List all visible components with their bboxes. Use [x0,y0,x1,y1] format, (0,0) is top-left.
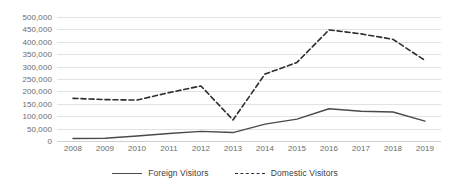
y-tick-label: 500,000 [22,13,52,22]
y-tick-label: 250,000 [22,75,52,84]
x-tick-label: 2010 [128,144,146,153]
y-tick-label: 50,000 [27,124,52,133]
legend-item-foreign-visitors[interactable]: Foreign Visitors [112,168,209,178]
legend-swatch-icon [112,173,142,174]
x-tick-label: 2018 [384,144,402,153]
line-chart: 050,000100,000150,000200,000250,000300,0… [0,0,450,192]
y-tick-label: 200,000 [22,87,52,96]
plot-area [57,17,441,141]
series-line-foreign-visitors [73,109,425,139]
x-tick-label: 2016 [320,144,338,153]
y-tick-label: 0 [47,137,52,146]
y-tick-label: 150,000 [22,99,52,108]
x-tick-label: 2008 [64,144,82,153]
x-tick-label: 2014 [256,144,274,153]
legend-label: Domestic Visitors [271,168,338,178]
legend-label: Foreign Visitors [148,168,209,178]
y-tick-label: 400,000 [22,37,52,46]
x-tick-label: 2012 [192,144,210,153]
x-tick-label: 2011 [160,144,178,153]
legend-swatch-icon [235,173,265,174]
x-axis: 2008200920102011201220132014201520162017… [57,144,441,158]
y-tick-label: 450,000 [22,25,52,34]
y-tick-label: 100,000 [22,112,52,121]
x-tick-label: 2017 [352,144,370,153]
series-container [57,17,441,141]
x-tick-label: 2015 [288,144,306,153]
y-tick-label: 300,000 [22,62,52,71]
x-tick-label: 2019 [416,144,434,153]
chart-legend: Foreign VisitorsDomestic Visitors [0,168,450,178]
x-tick-label: 2013 [224,144,242,153]
legend-item-domestic-visitors[interactable]: Domestic Visitors [235,168,338,178]
series-line-domestic-visitors [73,30,425,120]
y-axis: 050,000100,000150,000200,000250,000300,0… [0,17,52,141]
y-tick-label: 350,000 [22,50,52,59]
gridline [57,141,441,142]
x-tick-label: 2009 [96,144,114,153]
